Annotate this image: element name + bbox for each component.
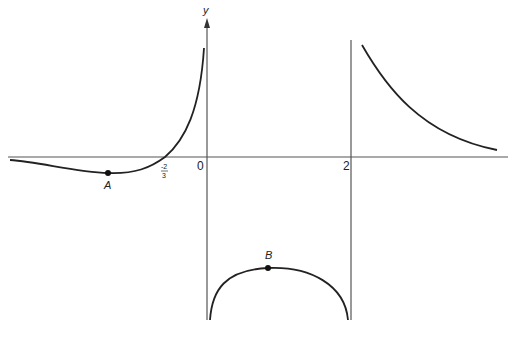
curve-middle-branch	[210, 268, 348, 320]
function-graph: y 0 2 -2 3 A B	[0, 0, 516, 349]
origin-label: 0	[197, 159, 204, 173]
curve-right-branch	[362, 45, 497, 150]
x-tick-2-label: 2	[343, 159, 350, 173]
x-tick-neg-two-thirds-den: 3	[162, 172, 166, 179]
y-axis-label: y	[202, 4, 210, 16]
y-axis-arrow-icon	[204, 18, 210, 28]
point-b-label: B	[265, 249, 272, 261]
x-tick-neg-two-thirds-num: -2	[161, 163, 167, 170]
point-b-marker	[265, 265, 271, 271]
point-a-label: A	[103, 179, 111, 191]
point-a-marker	[105, 170, 111, 176]
curve-left-branch	[10, 48, 204, 173]
